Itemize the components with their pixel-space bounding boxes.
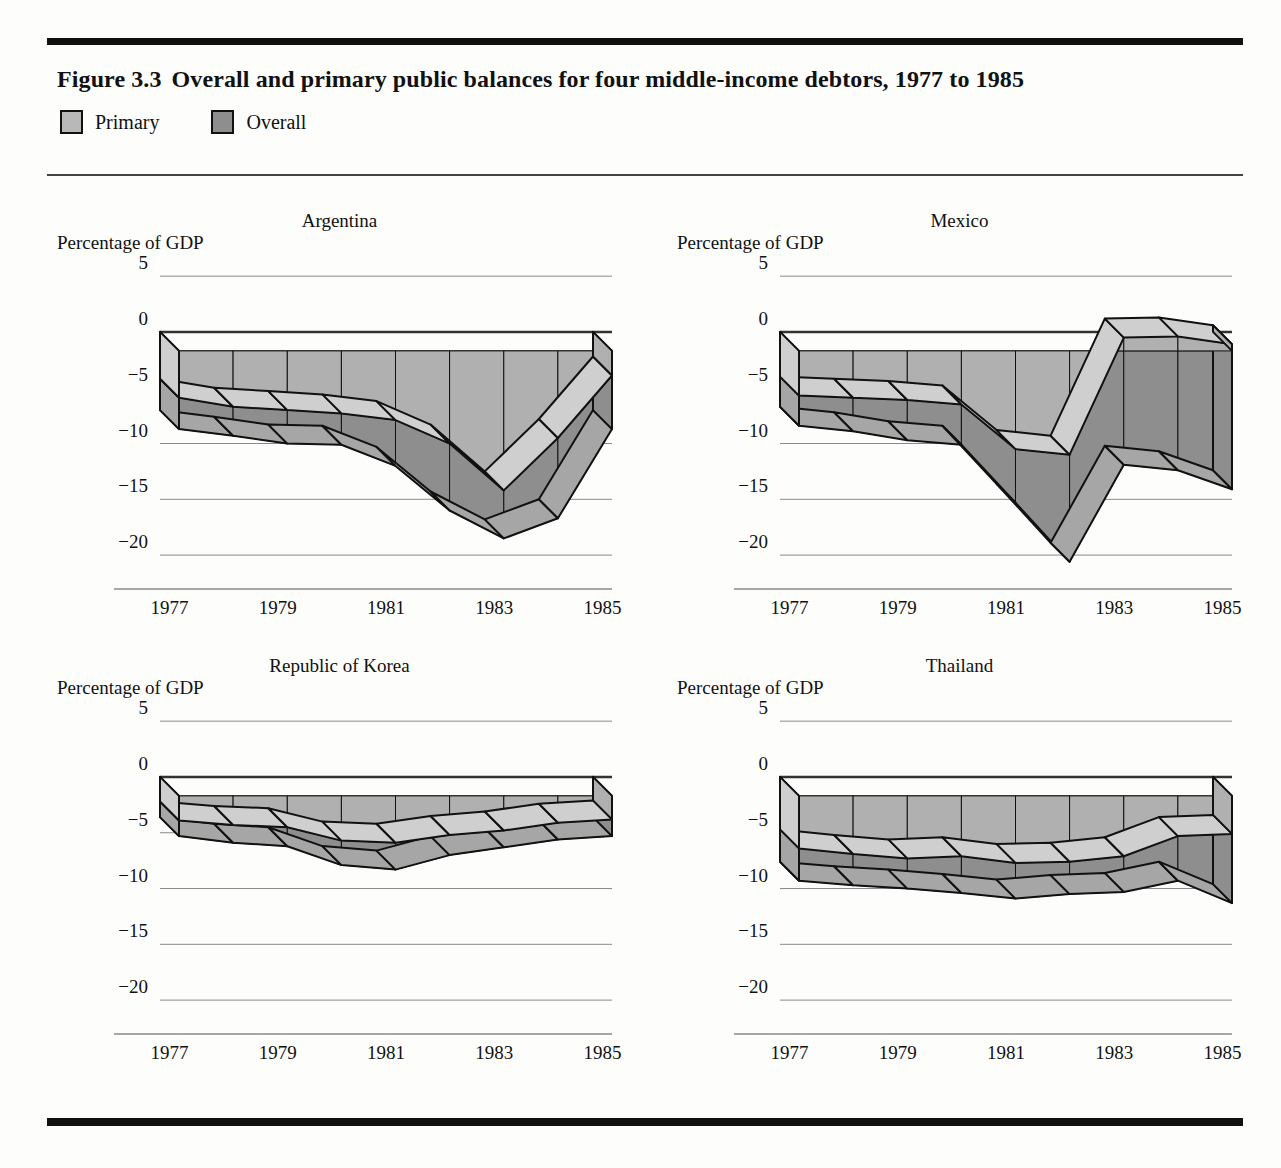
x-tick-label: 1981 (346, 597, 426, 619)
y-tick-label: −5 (82, 364, 148, 386)
legend-label-overall: Overall (246, 111, 306, 134)
y-tick-label: 0 (702, 753, 768, 775)
y-tick-label: −5 (82, 809, 148, 831)
legend-item-primary: Primary (60, 110, 159, 134)
y-tick-label: −5 (702, 809, 768, 831)
x-tick-label: 1983 (1074, 1042, 1154, 1064)
legend-swatch-primary (60, 110, 83, 134)
panel-argentina: ArgentinaPercentage of GDP50−5−10−15−201… (57, 210, 622, 600)
bottom-rule (47, 1118, 1243, 1126)
y-tick-label: −15 (82, 475, 148, 497)
panel-republic-of-korea: Republic of KoreaPercentage of GDP50−5−1… (57, 655, 622, 1045)
y-tick-label: 0 (702, 308, 768, 330)
y-tick-label: 0 (82, 753, 148, 775)
figure-container: Figure 3.3Overall and primary public bal… (0, 0, 1281, 1168)
x-tick-label: 1985 (1183, 1042, 1263, 1064)
legend-label-primary: Primary (95, 111, 159, 134)
x-tick-label: 1977 (130, 1042, 210, 1064)
y-tick-label: −10 (82, 865, 148, 887)
x-tick-label: 1979 (858, 597, 938, 619)
y-tick-label: 5 (82, 252, 148, 274)
legend: Primary Overall (60, 110, 358, 134)
x-tick-label: 1985 (563, 1042, 643, 1064)
y-tick-label: −10 (702, 865, 768, 887)
y-tick-label: −15 (702, 475, 768, 497)
y-tick-label: 5 (702, 697, 768, 719)
x-tick-label: 1981 (966, 1042, 1046, 1064)
legend-item-overall: Overall (211, 110, 306, 134)
y-tick-label: −15 (82, 920, 148, 942)
x-tick-label: 1983 (454, 1042, 534, 1064)
panel-thailand: ThailandPercentage of GDP50−5−10−15−2019… (677, 655, 1242, 1045)
y-tick-label: −20 (702, 976, 768, 998)
x-tick-label: 1977 (750, 1042, 830, 1064)
x-tick-label: 1981 (966, 597, 1046, 619)
x-tick-label: 1981 (346, 1042, 426, 1064)
figure-title-text: Overall and primary public balances for … (172, 66, 1024, 92)
y-tick-label: −5 (702, 364, 768, 386)
y-tick-label: −20 (82, 976, 148, 998)
y-tick-label: −10 (702, 420, 768, 442)
y-tick-label: 0 (82, 308, 148, 330)
x-tick-label: 1979 (238, 1042, 318, 1064)
x-tick-label: 1983 (1074, 597, 1154, 619)
x-tick-label: 1985 (563, 597, 643, 619)
x-tick-label: 1977 (130, 597, 210, 619)
y-tick-label: −15 (702, 920, 768, 942)
legend-separator-rule (47, 174, 1243, 176)
y-tick-label: −20 (702, 531, 768, 553)
x-tick-label: 1977 (750, 597, 830, 619)
x-tick-label: 1979 (238, 597, 318, 619)
x-tick-label: 1979 (858, 1042, 938, 1064)
y-tick-label: −10 (82, 420, 148, 442)
legend-swatch-overall (211, 110, 234, 134)
x-tick-label: 1983 (454, 597, 534, 619)
figure-title: Figure 3.3Overall and primary public bal… (57, 66, 1024, 93)
top-rule (47, 38, 1243, 45)
figure-number: Figure 3.3 (57, 66, 162, 92)
panel-mexico: MexicoPercentage of GDP50−5−10−15−201977… (677, 210, 1242, 600)
x-tick-label: 1985 (1183, 597, 1263, 619)
y-tick-label: −20 (82, 531, 148, 553)
y-tick-label: 5 (702, 252, 768, 274)
y-tick-label: 5 (82, 697, 148, 719)
